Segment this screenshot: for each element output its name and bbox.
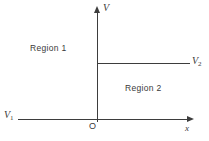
v2-subscript: 2: [198, 60, 202, 68]
region1-label: Region 1: [30, 44, 66, 53]
x-axis-arrowhead-icon: [187, 116, 194, 122]
x-axis-label: x: [185, 124, 189, 133]
step-potential-diagram: V x O Region 1 Region 2 V1 V2: [0, 0, 209, 141]
v1-subscript: 1: [10, 114, 14, 122]
potential-step-line: [97, 63, 190, 64]
v-axis-line: [97, 9, 98, 122]
x-axis-line: [18, 119, 190, 120]
v1-level-label: V1: [4, 110, 14, 122]
region2-label: Region 2: [125, 84, 161, 93]
v2-level-label: V2: [192, 56, 202, 68]
origin-label: O: [89, 122, 96, 131]
v-axis-arrowhead-icon: [94, 6, 100, 13]
v-axis-label: V: [103, 3, 109, 13]
